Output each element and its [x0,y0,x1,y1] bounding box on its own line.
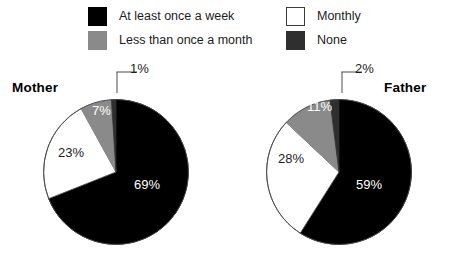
legend-swatch-gray-icon [88,31,107,50]
legend: At least once a week Monthly Less than o… [0,0,452,56]
pie-father-value-less-than-once-a-month: 11% [307,100,332,113]
pie-title-mother: Mother [12,80,58,95]
legend-label-less-than-once-a-month: Less than once a month [119,34,252,47]
pie-father-svg [266,99,412,245]
legend-swatch-black-icon [88,7,107,26]
pie-mother-slices [44,100,189,245]
pie-chart-father [266,99,412,245]
legend-item-none: None [286,30,347,50]
legend-label-none: None [317,34,347,47]
pie-title-father: Father [384,80,426,95]
legend-item-at-least-once-a-week: At least once a week [88,6,234,26]
pie-mother-value-less-than-once-a-month: 7% [92,104,111,117]
pie-mother-svg [43,99,189,245]
pie-father-value-none: 2% [355,62,374,75]
pie-father-value-at-least-once-a-week: 59% [356,178,382,191]
legend-label-monthly: Monthly [317,10,361,23]
pie-father-slices [267,100,412,245]
pie-mother-value-at-least-once-a-week: 69% [134,178,160,191]
legend-label-at-least-once-a-week: At least once a week [119,10,234,23]
legend-swatch-dark-icon [286,31,305,50]
pie-father-value-monthly: 28% [278,152,304,165]
pie-mother-value-monthly: 23% [58,146,84,159]
pie-chart-mother [43,99,189,245]
legend-swatch-white-icon [286,7,305,26]
pie-chart-figure: At least once a week Monthly Less than o… [0,0,452,266]
legend-item-monthly: Monthly [286,6,361,26]
pie-mother-value-none: 1% [130,62,149,75]
legend-item-less-than-once-a-month: Less than once a month [88,30,252,50]
